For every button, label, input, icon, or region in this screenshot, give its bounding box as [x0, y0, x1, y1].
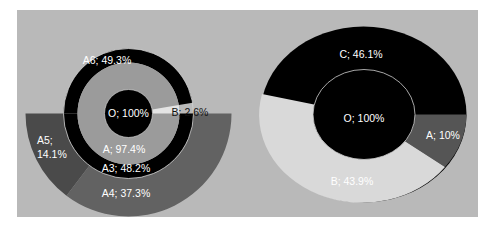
- label-B: B; 2.6%: [172, 106, 209, 118]
- label-A5-line2: 14.1%: [37, 148, 67, 160]
- label-A5-line1: A5;: [37, 134, 53, 146]
- label-A3: A3; 48.2%: [102, 162, 150, 174]
- label-center-right: O; 100%: [344, 112, 385, 124]
- label-B-right: B; 43.9%: [331, 175, 374, 187]
- label-A: A; 97.4%: [103, 143, 146, 155]
- charts-svg: O; 100% A; 97.4% B; 2.6% A6; 49.3% A3; 4…: [0, 0, 496, 231]
- right-sunburst: O; 100% A; 10% B; 43.9% C; 46.1%: [259, 27, 466, 203]
- label-A-right: A; 10%: [426, 129, 460, 141]
- left-sunburst: O; 100% A; 97.4% B; 2.6% A6; 49.3% A3; 4…: [26, 49, 232, 217]
- label-center: O; 100%: [108, 107, 149, 119]
- label-A6: A6; 49.3%: [83, 54, 131, 66]
- label-C-right: C; 46.1%: [339, 48, 382, 60]
- label-A4: A4; 37.3%: [102, 187, 150, 199]
